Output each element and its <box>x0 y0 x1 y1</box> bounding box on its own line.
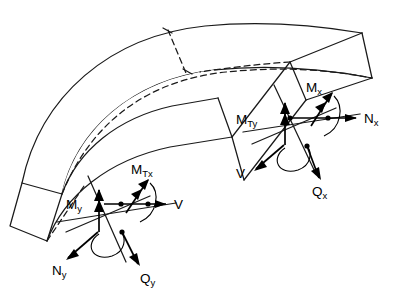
label-v-right: V <box>236 166 245 181</box>
shell-right-front-edge <box>244 100 306 180</box>
shell-body <box>10 24 372 241</box>
label-m-tx: MTx <box>131 162 153 179</box>
vector-v-left <box>104 200 166 208</box>
vector-m-ty <box>280 102 290 145</box>
vector-n-x <box>287 114 357 122</box>
vector-n-y <box>66 232 98 260</box>
label-n-y: Ny <box>52 263 67 280</box>
right-axis-guide-c <box>252 108 336 144</box>
shell-element-diagram: MTx My V Ny Qy MTy Mx Nx <box>0 0 401 305</box>
vector-q-y <box>91 229 140 266</box>
vector-q-x <box>277 143 321 180</box>
label-m-ty: MTy <box>236 112 258 129</box>
label-m-x: Mx <box>306 80 322 97</box>
label-v-left: V <box>174 197 183 212</box>
label-q-y: Qy <box>140 271 156 288</box>
label-n-x: Nx <box>364 111 379 128</box>
figure-canvas: MTx My V Ny Qy MTy Mx Nx <box>0 0 401 305</box>
vector-m-x <box>311 92 340 136</box>
arc-q-y <box>91 232 124 257</box>
label-q-x: Qx <box>312 184 328 201</box>
